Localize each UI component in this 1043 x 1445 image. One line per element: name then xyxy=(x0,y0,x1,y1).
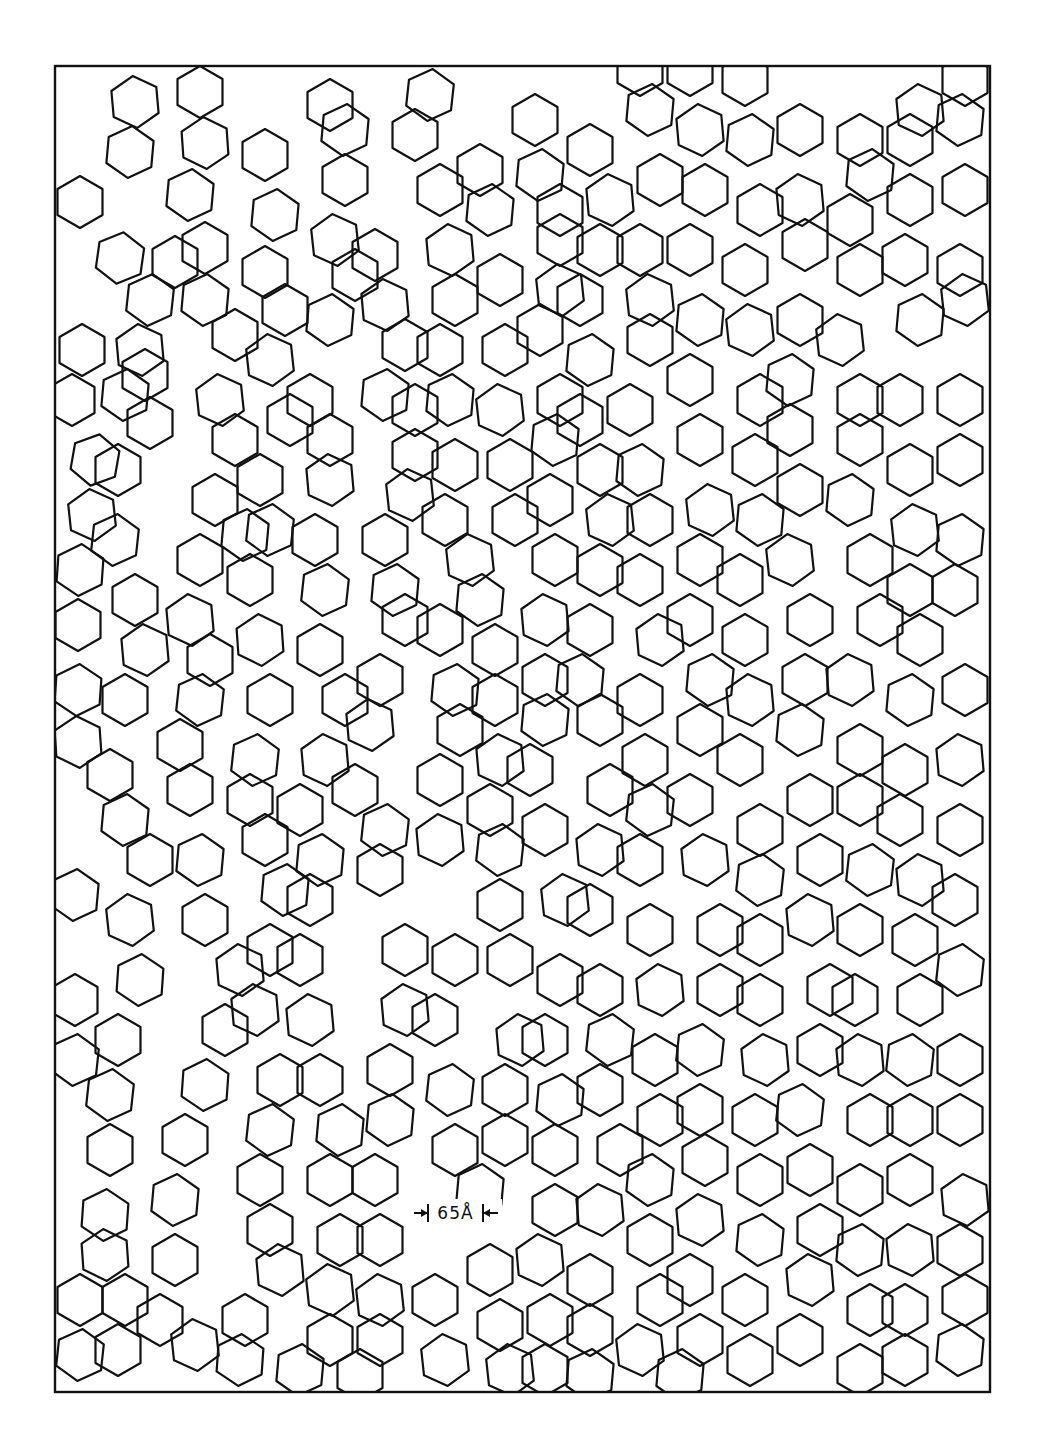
hexagon-particle xyxy=(278,784,323,836)
hexagon-particle xyxy=(168,764,213,816)
hexagon-particle xyxy=(483,324,528,376)
hexagon-particle xyxy=(588,764,633,816)
hexagon-particle xyxy=(466,184,513,236)
hexagon-particle xyxy=(301,734,348,786)
hexagon-particle xyxy=(278,934,323,986)
hexagon-particle xyxy=(776,1084,824,1136)
hexagon-particle xyxy=(558,274,603,326)
hexagon-particle xyxy=(848,534,893,586)
hexagon-particle xyxy=(203,1004,248,1056)
hexagon-particle xyxy=(626,274,674,326)
hexagon-particle xyxy=(833,974,878,1026)
hexagon-particle xyxy=(568,1304,613,1356)
hexagon-particle xyxy=(733,434,778,486)
hexagon-particle xyxy=(586,1014,634,1066)
hexagon-particle xyxy=(883,234,928,286)
hexagon-particle xyxy=(698,964,743,1016)
hexagon-particle xyxy=(888,114,933,166)
hexagon-particle xyxy=(508,744,553,796)
hexagon-particle xyxy=(848,1094,893,1146)
hexagon-particle xyxy=(538,954,583,1006)
hexagon-particle xyxy=(886,1034,934,1086)
hexagon-particle xyxy=(736,854,784,906)
hexagon-particle xyxy=(636,614,683,666)
hexagon-particle xyxy=(381,984,428,1036)
hexagon-particle xyxy=(416,814,463,866)
hexagon-particle xyxy=(121,624,168,676)
hexagon-particle xyxy=(888,1154,933,1206)
hexagon-particle xyxy=(523,654,568,706)
hexagon-particle xyxy=(298,624,343,676)
hexagon-particle xyxy=(766,534,814,586)
hexagon-particle xyxy=(726,304,774,356)
hexagon-particle xyxy=(676,1024,724,1076)
hexagon-particle xyxy=(426,224,473,276)
hexagon-particle xyxy=(483,1064,528,1116)
hexagon-particle xyxy=(293,514,338,566)
hexagon-particle xyxy=(738,374,783,426)
hexagon-particle xyxy=(333,764,378,816)
hexagon-particle xyxy=(276,1344,323,1396)
hexagon-particle xyxy=(478,879,523,931)
hexagon-particle xyxy=(193,474,238,526)
hexagon-particle xyxy=(556,654,603,706)
hexagon-particle xyxy=(128,834,173,886)
hexagon-particle xyxy=(358,1214,403,1266)
hexagon-particle xyxy=(231,984,278,1036)
hexagon-particle xyxy=(838,374,883,426)
hexagon-particle xyxy=(626,1154,673,1206)
hexagon-particle xyxy=(288,374,333,426)
hexagon-particle xyxy=(353,1154,398,1206)
hexagon-particle xyxy=(151,1174,198,1226)
hexagon-particle xyxy=(333,249,378,301)
hexagon-particle xyxy=(528,474,573,526)
hexagon-particle xyxy=(568,604,613,656)
hexagon-particle xyxy=(938,1034,983,1086)
hexagon-particle xyxy=(106,126,153,178)
hexagon-particle xyxy=(103,674,148,726)
hexagon-particle xyxy=(96,1014,141,1066)
hexagon-particle xyxy=(358,1314,403,1366)
hexagon-particle xyxy=(496,1014,543,1066)
hexagon-particle xyxy=(566,334,613,386)
hexagon-particle xyxy=(883,1334,928,1386)
hexagon-particle xyxy=(308,414,353,466)
hexagon-particle xyxy=(316,1104,363,1156)
hexagon-particle xyxy=(628,904,673,956)
hexagon-particle xyxy=(598,1124,643,1176)
hexagon-particle xyxy=(578,444,623,496)
hexagon-particle xyxy=(766,354,813,406)
hexagon-particle xyxy=(668,44,713,96)
hexagon-particle xyxy=(433,439,478,491)
hexagon-particle xyxy=(246,1104,294,1156)
hexagon-particle xyxy=(246,504,294,556)
hexagon-particle xyxy=(383,319,428,371)
hexagon-particle xyxy=(106,894,154,946)
hexagon-particle xyxy=(493,494,538,546)
hexagon-particle xyxy=(433,934,478,986)
hexagon-particle xyxy=(676,294,723,346)
hexagon-particle xyxy=(738,804,783,856)
hexagon-particle xyxy=(228,554,273,606)
hexagon-particle xyxy=(718,554,763,606)
hexagon-particle xyxy=(578,964,623,1016)
hexagon-particle xyxy=(55,716,102,768)
hexagon-particle xyxy=(58,1274,103,1326)
hexagon-particle xyxy=(783,654,828,706)
hexagon-particle xyxy=(413,1274,458,1326)
hexagon-particle xyxy=(478,1299,523,1351)
hexagon-particle xyxy=(426,1064,474,1116)
hexagon-particle xyxy=(683,164,728,216)
hexagon-particle xyxy=(433,1124,478,1176)
hexagon-particle xyxy=(196,374,244,426)
hexagon-particle xyxy=(57,544,104,596)
hexagon-particle xyxy=(178,66,223,118)
hexagon-particle xyxy=(88,1124,133,1176)
hexagon-particle xyxy=(243,246,288,298)
hexagon-particle xyxy=(936,734,983,786)
hexagon-particle xyxy=(738,914,783,966)
hexagon-particle xyxy=(943,664,988,716)
hexagon-particle xyxy=(936,514,983,566)
hexagon-particle xyxy=(838,1344,883,1396)
hexagon-particle xyxy=(243,814,288,866)
